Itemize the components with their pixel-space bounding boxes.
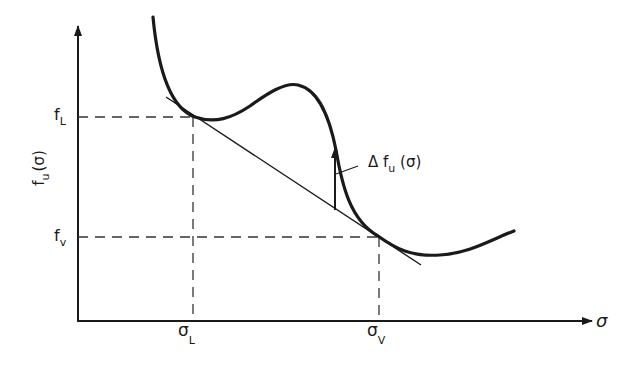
free-energy-curve [153, 17, 514, 255]
delta-annotation: Δ fu (σ) [368, 153, 421, 175]
y-axis-label: fu(σ) [30, 150, 52, 185]
x-axis-label: σ [596, 310, 608, 331]
guide-lines [78, 117, 379, 321]
svg-text:fu(σ): fu(σ) [30, 150, 52, 185]
y-tick-fL: fL [54, 105, 67, 128]
x-tick-sigmaL: σL [178, 320, 196, 347]
x-tick-sigmaV: σV [367, 320, 386, 347]
diagram: fu(σ) fL fv σL σV σ Δ fu (σ) [0, 0, 629, 367]
y-tick-fv: fv [54, 226, 67, 249]
